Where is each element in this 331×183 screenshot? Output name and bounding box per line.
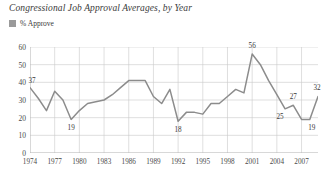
x-axis-tick-label: 1986 <box>122 158 136 166</box>
y-axis-tick-label: 10 <box>19 131 27 140</box>
x-axis-tick-label: 2004 <box>270 158 284 166</box>
legend-swatch-approve <box>9 20 16 27</box>
data-point-value-label: 56 <box>249 42 256 50</box>
data-point-value-label: 25 <box>276 113 283 121</box>
x-axis-tick-label: 2001 <box>245 158 259 166</box>
x-axis-tick-label: 1992 <box>171 158 185 166</box>
chart-legend: % Approve <box>9 19 54 28</box>
legend-label-approve: % Approve <box>20 19 54 28</box>
data-point-value-label: 27 <box>290 93 297 101</box>
y-axis-tick-label: 60 <box>19 43 27 52</box>
y-axis-tick-label: 30 <box>19 96 27 105</box>
x-axis-tick-label: 1974 <box>23 158 37 166</box>
chart-page: Congressional Job Approval Averages, by … <box>0 0 331 183</box>
x-axis-tick-label: 1980 <box>72 158 86 166</box>
x-axis-tick-label: 1995 <box>196 158 210 166</box>
y-axis-tick-label: 50 <box>19 60 27 69</box>
y-axis-tick-label: 20 <box>19 113 27 122</box>
line-chart-svg <box>30 47 318 153</box>
x-axis-tick-label: 1977 <box>47 158 61 166</box>
data-point-value-label: 18 <box>175 126 182 134</box>
x-axis-tick-label: 1983 <box>97 158 111 166</box>
y-axis-tick-label: 40 <box>19 78 27 87</box>
data-point-value-label: 32 <box>313 84 320 92</box>
data-line-approve <box>30 54 318 121</box>
x-axis-tick-label: 1998 <box>220 158 234 166</box>
chart-title: Congressional Job Approval Averages, by … <box>9 3 192 13</box>
data-point-value-label: 19 <box>68 124 75 132</box>
data-point-value-label: 19 <box>308 124 315 132</box>
data-point-value-label: 37 <box>28 77 35 85</box>
x-axis-tick-label: 1989 <box>146 158 160 166</box>
y-axis-tick-label: 0 <box>22 149 26 158</box>
plot-area: 0102030405060 19741977198019831986198919… <box>30 47 318 153</box>
x-axis-tick-label: 2007 <box>294 158 308 166</box>
